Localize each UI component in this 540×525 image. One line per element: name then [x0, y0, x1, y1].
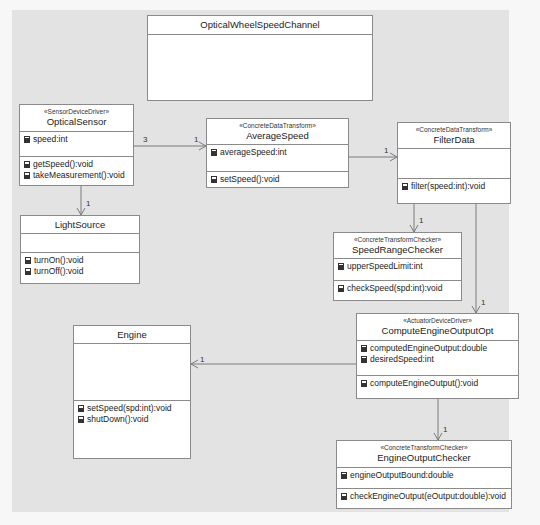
attribute-text: engineOutputBound:double — [350, 470, 454, 481]
class-header: OpticalWheelSpeedChannel — [148, 16, 372, 35]
attribute-icon — [361, 356, 367, 363]
operation-text: checkEngineOutput(eOutput:double):void — [350, 491, 506, 502]
class-header: «ConcreteTransformChecker» EngineOutputC… — [337, 441, 511, 468]
operation-icon — [341, 493, 347, 500]
operation-compartment: checkEngineOutput(eOutput:double):void — [337, 489, 511, 508]
operation-row[interactable]: setSpeed():void — [211, 174, 344, 185]
attribute-text: speed:int — [33, 134, 68, 145]
class-name: FilterData — [400, 134, 508, 146]
class-name: SpeedRangeChecker — [336, 244, 459, 256]
operation-icon — [402, 183, 408, 190]
class-stereotype: «ActuatorDeviceDriver» — [359, 317, 516, 325]
operation-row[interactable]: turnOff():void — [25, 266, 135, 277]
attribute-icon — [341, 472, 347, 479]
attribute-compartment: averageSpeed:int — [207, 145, 348, 172]
operation-icon — [361, 380, 367, 387]
class-speed-range-checker[interactable]: «ConcreteTransformChecker» SpeedRangeChe… — [333, 232, 462, 301]
multiplicity-label: 1 — [194, 135, 198, 144]
class-stereotype: «ConcreteDataTransform» — [209, 122, 346, 130]
class-stereotype: «ConcreteDataTransform» — [400, 126, 508, 134]
multiplicity-label: 1 — [419, 216, 423, 225]
class-header: LightSource — [21, 216, 139, 234]
multiplicity-label: 3 — [143, 135, 147, 144]
operation-text: shutDown():void — [87, 414, 148, 425]
attribute-row[interactable]: speed:int — [24, 134, 129, 145]
attribute-compartment — [74, 344, 190, 401]
class-header: Engine — [74, 326, 190, 344]
attribute-compartment: upperSpeedLimit:int — [334, 259, 461, 281]
class-header: «ConcreteTransformChecker» SpeedRangeChe… — [334, 233, 461, 259]
attribute-compartment — [398, 149, 510, 179]
operation-compartment: getSpeed():void takeMeasurement():void — [20, 157, 133, 185]
attribute-icon — [361, 345, 367, 352]
class-average-speed[interactable]: «ConcreteDataTransform» AverageSpeed ave… — [206, 118, 349, 188]
attribute-compartment — [21, 234, 139, 253]
class-stereotype: «ConcreteTransformChecker» — [339, 444, 509, 452]
attribute-icon — [24, 136, 30, 143]
operation-icon — [338, 285, 344, 292]
attribute-icon — [211, 149, 217, 156]
class-header: «ConcreteDataTransform» AverageSpeed — [207, 119, 348, 145]
class-engine[interactable]: Engine setSpeed(spd:int):void shutDown()… — [73, 325, 191, 459]
class-header: «SensorDeviceDriver» OpticalSensor — [20, 105, 133, 132]
class-body — [148, 35, 372, 100]
operation-icon — [25, 268, 31, 275]
operation-compartment: setSpeed(spd:int):void shutDown():void — [74, 401, 190, 458]
operation-row[interactable]: computeEngineOutput():void — [361, 378, 514, 389]
class-optical-wheel-speed-channel[interactable]: OpticalWheelSpeedChannel — [147, 15, 373, 101]
multiplicity-label: 1 — [86, 199, 90, 208]
attribute-text: averageSpeed:int — [220, 147, 287, 158]
operation-text: filter(speed:int):void — [411, 181, 485, 192]
attribute-row[interactable]: upperSpeedLimit:int — [338, 261, 457, 272]
attribute-row[interactable]: engineOutputBound:double — [341, 470, 507, 481]
attribute-compartment: engineOutputBound:double — [337, 468, 511, 489]
attribute-compartment: speed:int — [20, 132, 133, 157]
attribute-row[interactable]: computedEngineOutput:double — [361, 343, 514, 354]
attribute-text: computedEngineOutput:double — [370, 343, 487, 354]
operation-compartment: computeEngineOutput():void — [357, 376, 518, 398]
operation-compartment: filter(speed:int):void — [398, 179, 510, 203]
class-filter-data[interactable]: «ConcreteDataTransform» FilterData filte… — [397, 122, 511, 204]
class-name: Engine — [76, 329, 188, 341]
multiplicity-label: 1 — [481, 298, 485, 307]
class-light-source[interactable]: LightSource turnOn():void turnOff():void — [20, 215, 140, 284]
class-name: LightSource — [23, 219, 137, 231]
class-engine-output-checker[interactable]: «ConcreteTransformChecker» EngineOutputC… — [336, 440, 512, 509]
operation-icon — [24, 161, 30, 168]
operation-icon — [25, 257, 31, 264]
class-optical-sensor[interactable]: «SensorDeviceDriver» OpticalSensor speed… — [19, 104, 134, 186]
class-compute-engine-output-opt[interactable]: «ActuatorDeviceDriver» ComputeEngineOutp… — [356, 313, 519, 399]
attribute-row[interactable]: averageSpeed:int — [211, 147, 344, 158]
operation-icon — [24, 172, 30, 179]
operation-row[interactable]: shutDown():void — [78, 414, 186, 425]
operation-icon — [78, 405, 84, 412]
class-name: OpticalWheelSpeedChannel — [150, 19, 370, 31]
attribute-row[interactable]: desiredSpeed:int — [361, 354, 514, 365]
class-name: AverageSpeed — [209, 130, 346, 142]
operation-icon — [78, 416, 84, 423]
operation-row[interactable]: takeMeasurement():void — [24, 170, 129, 181]
class-name: ComputeEngineOutputOpt — [359, 325, 516, 337]
class-stereotype: «ConcreteTransformChecker» — [336, 236, 459, 244]
operation-row[interactable]: getSpeed():void — [24, 159, 129, 170]
operation-text: takeMeasurement():void — [33, 170, 125, 181]
multiplicity-label: 1 — [200, 355, 204, 364]
operation-row[interactable]: setSpeed(spd:int):void — [78, 403, 186, 414]
operation-compartment: checkSpeed(spd:int):void — [334, 281, 461, 300]
attribute-compartment: computedEngineOutput:double desiredSpeed… — [357, 341, 518, 376]
operation-text: setSpeed():void — [220, 174, 280, 185]
operation-row[interactable]: turnOn():void — [25, 255, 135, 266]
multiplicity-label: 1 — [384, 146, 388, 155]
operation-row[interactable]: checkSpeed(spd:int):void — [338, 283, 457, 294]
multiplicity-label: 1 — [443, 425, 447, 434]
class-name: OpticalSensor — [22, 116, 131, 128]
operation-text: turnOn():void — [34, 255, 84, 266]
operation-row[interactable]: filter(speed:int):void — [402, 181, 506, 192]
operation-text: getSpeed():void — [33, 159, 93, 170]
operation-text: checkSpeed(spd:int):void — [347, 283, 442, 294]
class-header: «ActuatorDeviceDriver» ComputeEngineOutp… — [357, 314, 518, 341]
operation-row[interactable]: checkEngineOutput(eOutput:double):void — [341, 491, 507, 502]
operation-compartment: turnOn():void turnOff():void — [21, 253, 139, 283]
class-header: «ConcreteDataTransform» FilterData — [398, 123, 510, 149]
attribute-icon — [338, 263, 344, 270]
